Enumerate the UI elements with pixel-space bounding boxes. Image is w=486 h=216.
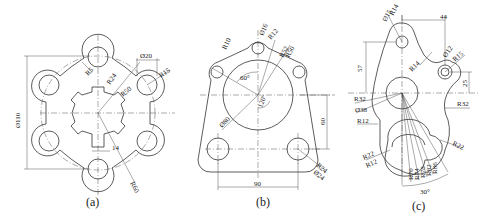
dim-top-radius: R14 <box>388 2 401 17</box>
dim-angle-b: 120° <box>256 93 268 108</box>
hole-bottom-right <box>137 131 157 151</box>
figure-b: R10 Ø16 R12 R52 R50 60° 120° Ø80 60 R24 … <box>198 22 335 209</box>
hole-bottom-left <box>39 131 59 151</box>
dim-left-radius: R32 <box>354 95 366 103</box>
dim-left-fillet: R12 <box>357 117 369 125</box>
hole-top-left <box>39 75 59 95</box>
caption-c: (c) <box>412 199 425 213</box>
dim-right-concave: R32 <box>457 100 469 108</box>
drawing-canvas: Ø110 R24 R50 Ø20 R15 R5 R60 14 (a) <box>0 0 486 216</box>
dim-vertical-dist: 60 <box>319 118 327 126</box>
dim-slot-right: R22 <box>451 140 465 152</box>
hole-left <box>211 66 223 78</box>
dim-overall-dia: Ø110 <box>14 112 22 128</box>
caption-a: (a) <box>86 195 99 209</box>
hole-right <box>293 66 305 78</box>
dim-slot-angle: 30° <box>420 188 430 196</box>
dim-side-radius: R10 <box>221 36 233 50</box>
dim-concave-radius: R14 <box>408 59 422 73</box>
dim-horizontal-dist: 90 <box>254 180 262 188</box>
dim-horiz-offset: 44 <box>440 13 448 21</box>
dim-hole-dia: Ø20 <box>140 52 153 60</box>
dim-right-radius: R15 <box>451 50 465 64</box>
caption-b: (b) <box>256 195 270 209</box>
dim-key-width: 14 <box>112 144 120 152</box>
svg-text:R86: R86 <box>431 162 439 174</box>
dim-bolt-circle: R50 <box>119 85 133 99</box>
dim-angle-a: 60° <box>240 74 250 82</box>
arc-radii-labels: R70 R74 R78 R82 R86 <box>407 162 439 180</box>
dim-outer-arc: R60 <box>128 180 141 195</box>
dim-fillet-radius: R5 <box>84 66 96 78</box>
dim-lobe-radius: R15 <box>158 66 173 80</box>
dim-right-vert: 25 <box>461 80 469 88</box>
figure-c: Ø15 R14 44 57 R14 Ø12 R15 25 R32 R32 Ø38… <box>348 2 478 213</box>
dim-bore-dia: Ø80 <box>218 115 233 130</box>
dim-top-radius: R12 <box>266 27 280 41</box>
dim-spline-outer: R24 <box>105 72 119 87</box>
dim-centre-dia: Ø38 <box>355 106 368 114</box>
dim-vert-offset: 57 <box>356 65 364 73</box>
figure-a: Ø110 R24 R50 Ø20 R15 R5 R60 14 (a) <box>14 34 175 209</box>
